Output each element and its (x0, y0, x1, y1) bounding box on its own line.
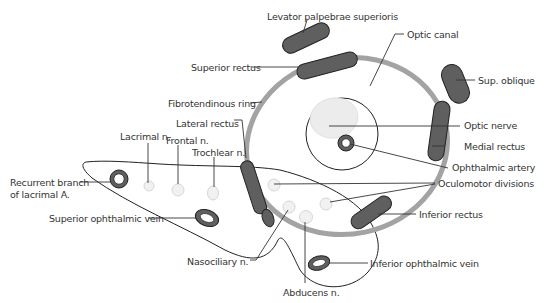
label-frontal-n: Frontal n. (166, 135, 209, 146)
label-levator: Levator palpebrae superioris (267, 11, 398, 22)
label-ophthalmic-artery: Ophthalmic artery (452, 162, 535, 173)
label-superior-ophthalmic-vein: Superior ophthalmic vein (49, 213, 164, 224)
label-fibrotendinous-ring: Fibrotendinous ring (168, 98, 256, 109)
label-abducens-n: Abducens n. (283, 287, 339, 298)
nasociliary-n-shape (283, 201, 295, 213)
label-nasociliary-n: Nasociliary n. (187, 256, 248, 267)
oculomotor-inf-shape (320, 198, 332, 210)
label-sup-oblique: Sup. oblique (478, 75, 535, 86)
label-superior-rectus: Superior rectus (191, 62, 261, 73)
label-recurrent-branch-2: of lacrimal A. (10, 189, 70, 200)
lateral-rectus-shape (239, 159, 268, 215)
label-trochlear-n: Trochlear n. (192, 147, 245, 158)
label-optic-nerve: Optic nerve (464, 120, 517, 131)
superior-rectus-shape (295, 50, 359, 81)
lacrimal-n-shape (144, 181, 154, 191)
label-lateral-rectus: Lateral rectus (176, 118, 239, 129)
label-inferior-rectus: Inferior rectus (419, 209, 483, 220)
label-optic-canal: Optic canal (407, 29, 458, 40)
nerve-circles (144, 179, 332, 224)
label-recurrent-branch-1: Recurrent branch (10, 177, 89, 188)
leader-lines (80, 20, 475, 283)
ophthalmic-artery-lumen (342, 139, 350, 147)
levator-shape (280, 20, 332, 56)
frontal-n-shape (172, 184, 184, 196)
oculomotor-sup-shape (268, 179, 280, 191)
label-lacrimal-n: Lacrimal n. (120, 131, 170, 142)
label-inferior-ophthalmic-vein: Inferior ophthalmic vein (370, 258, 479, 269)
trochlear-n-shape (208, 186, 219, 200)
label-oculomotor-divisions: Oculomotor divisions (438, 178, 534, 189)
sup-oblique-shape (438, 61, 472, 106)
label-medial-rectus: Medial rectus (464, 141, 525, 152)
abducens-n-shape (300, 211, 313, 224)
recurrent-branch-lumen (114, 174, 124, 184)
